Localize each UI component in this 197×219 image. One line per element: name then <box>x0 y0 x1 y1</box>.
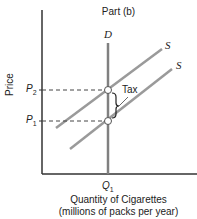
tax-label: Tax <box>122 84 138 95</box>
p1-tick-label: P1 <box>26 114 37 127</box>
q1-tick-label: Q1 <box>102 180 114 193</box>
y-axis-label: Price <box>4 73 15 96</box>
p2-tick-label: P2 <box>26 83 37 96</box>
equilibrium-p1-point <box>105 118 112 125</box>
chart-title: Part (b) <box>0 6 197 17</box>
x-axis-label: Quantity of Cigarettes (millions of pack… <box>40 194 197 218</box>
demand-label: D <box>104 28 112 40</box>
x-axis-label-line1: Quantity of Cigarettes <box>40 194 197 206</box>
x-axis-label-line2: (millions of packs per year) <box>40 206 197 218</box>
chart-canvas <box>0 0 197 219</box>
supply-lower-label: S <box>176 59 182 71</box>
supply-upper-label: S <box>165 39 171 51</box>
equilibrium-p2-point <box>105 87 112 94</box>
